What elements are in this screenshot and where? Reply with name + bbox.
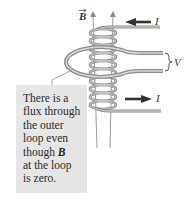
magnetic-field-lines: [93, 14, 113, 148]
current-arrow-bottom: [125, 95, 152, 103]
current-arrow-top: [125, 18, 151, 26]
callout-line-3: the outer: [23, 119, 87, 132]
callout-leader-line: [52, 70, 72, 85]
callout-line-2: flux through: [23, 105, 87, 118]
vector-b-symbol: B: [58, 146, 66, 158]
callout-line-6: at the loop: [23, 159, 87, 172]
current-label-top: I: [154, 15, 160, 27]
callout-line-5-text: though: [23, 146, 58, 158]
callout-line-4: loop even: [23, 132, 87, 145]
callout-line-1: There is a: [23, 92, 87, 105]
callout-line-7: is zero.: [23, 172, 87, 185]
callout-line-5: though B: [23, 146, 87, 159]
voltage-brace: [165, 53, 172, 71]
current-label-bottom: I: [155, 92, 161, 104]
field-label: B: [78, 10, 86, 22]
voltage-label: V: [174, 56, 182, 68]
callout-box: There is a flux through the outer loop e…: [16, 85, 87, 193]
